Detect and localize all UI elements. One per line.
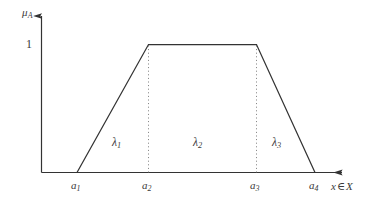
region-label-lambda3: λ3	[272, 137, 281, 151]
x-tick-label-a2: a2	[142, 180, 151, 193]
x-tick-label-a1: a1	[71, 180, 80, 193]
y-axis-label-subscript: A	[28, 11, 33, 20]
region-label-lambda1: λ1	[112, 137, 121, 151]
plot-canvas	[0, 0, 385, 207]
trapezoidal-membership-function-figure: μA 1 a1 a2 a3 a4 x∈X λ1 λ2 λ3	[0, 0, 385, 207]
y-axis-label: μA	[22, 7, 32, 20]
x-tick-a4-subscript: 4	[315, 184, 319, 193]
y-tick-label-1: 1	[26, 38, 32, 50]
element-of-icon: ∈	[336, 180, 346, 192]
region-lambda1-subscript: 1	[117, 141, 121, 150]
region-label-lambda2: λ2	[193, 137, 202, 151]
x-tick-label-a3: a3	[250, 180, 259, 193]
x-tick-label-a4: a4	[309, 180, 318, 193]
region-lambda2-subscript: 2	[198, 141, 202, 150]
x-tick-a2-subscript: 2	[148, 184, 152, 193]
membership-function-curve	[77, 45, 315, 173]
x-axis-label-set: X	[346, 180, 353, 192]
x-axis-label: x∈X	[331, 181, 353, 192]
region-lambda3-subscript: 3	[277, 141, 281, 150]
x-tick-a1-subscript: 1	[77, 184, 81, 193]
x-tick-a3-subscript: 3	[256, 184, 260, 193]
